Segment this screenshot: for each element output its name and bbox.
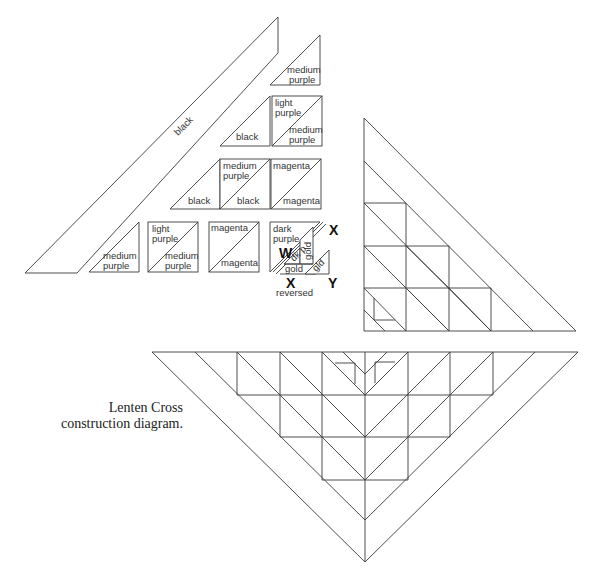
svg-text:purple: purple [165, 260, 191, 271]
svg-text:purple: purple [103, 260, 129, 271]
caption-line-1: Lenten Cross [0, 400, 183, 416]
label-Y: Y [328, 275, 338, 291]
svg-text:gold: gold [285, 263, 303, 274]
piece-row3-black: black [170, 159, 220, 209]
svg-text:purple: purple [275, 107, 301, 118]
piece-row3-medium-purple-black: medium purple black [220, 159, 270, 209]
svg-text:magenta: magenta [221, 257, 259, 268]
piece-row2-light-medium-purple: light purple medium purple [272, 96, 323, 146]
svg-text:magenta: magenta [211, 222, 249, 233]
svg-text:purple: purple [289, 74, 315, 85]
svg-text:black: black [188, 195, 210, 206]
right-quarter-triangle [364, 118, 576, 331]
svg-text:black: black [237, 195, 259, 206]
figure-caption: Lenten Cross construction diagram. [0, 400, 183, 432]
piece-row4-magenta: magenta magenta [209, 222, 259, 272]
svg-text:gold: gold [302, 242, 313, 260]
bottom-half-triangle [152, 352, 578, 562]
svg-text:magenta: magenta [283, 195, 321, 206]
svg-text:purple: purple [223, 170, 249, 181]
svg-text:purple: purple [273, 233, 299, 244]
caption-line-2: construction diagram. [0, 416, 183, 432]
label-reversed: reversed [276, 287, 313, 298]
svg-text:black: black [236, 131, 258, 142]
svg-text:purple: purple [152, 233, 178, 244]
piece-row4-light-medium-purple: light purple medium purple [148, 222, 199, 272]
piece-row3-magenta: magenta magenta [271, 159, 321, 209]
label-X: X [329, 222, 339, 238]
construction-diagram: black medium purple black light purple m… [0, 0, 591, 587]
svg-text:magenta: magenta [273, 160, 311, 171]
svg-text:purple: purple [289, 134, 315, 145]
